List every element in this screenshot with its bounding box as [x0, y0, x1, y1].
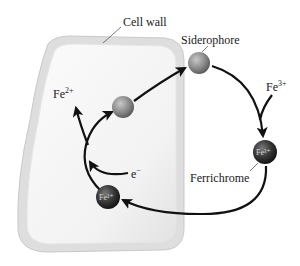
siderophore-inside-ball [112, 96, 134, 118]
arrow-siderophore-to-ferrichrome [212, 66, 263, 136]
fe3-label: Fe3+ [266, 79, 287, 94]
cell-wall-label: Cell wall [123, 15, 167, 29]
siderophore-diagram: Cell wall Fe³⁺ Fe³⁺ Siderophore [0, 0, 300, 266]
siderophore-outside-ball [188, 52, 210, 74]
ferrichrome-ball-label: Fe³⁺ [256, 148, 271, 157]
cell [18, 36, 184, 252]
inside-ball-label: Fe³⁺ [99, 193, 114, 202]
arrow-fe3-join [260, 95, 272, 120]
siderophore-label: Siderophore [181, 33, 240, 47]
cytoplasm [27, 44, 176, 244]
ferrichrome-leader [250, 163, 258, 171]
ferrichrome-label: Ferrichrome [190, 171, 249, 185]
